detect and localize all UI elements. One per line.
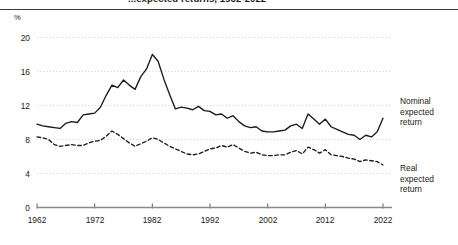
series-line-nominal bbox=[37, 55, 383, 140]
series-line-real bbox=[37, 131, 383, 165]
chart-figure: ...expected returns, 1962-2022 % 20 16 1… bbox=[0, 0, 458, 245]
plot-area bbox=[0, 0, 458, 245]
gridlines bbox=[37, 38, 392, 174]
